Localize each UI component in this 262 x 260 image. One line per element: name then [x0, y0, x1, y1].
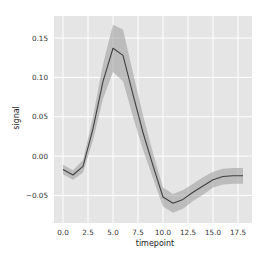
- y-tick-label: −0.05: [26, 191, 48, 200]
- x-tick-label: 7.5: [132, 228, 143, 237]
- y-axis-label: signal: [12, 106, 21, 130]
- y-tick-label: 0.00: [32, 152, 48, 161]
- y-tick-label: 0.15: [32, 34, 48, 43]
- x-tick-label: 15.0: [205, 228, 221, 237]
- plot-area: [54, 16, 252, 223]
- x-tick-label: 2.5: [82, 228, 93, 237]
- x-axis-label: timepoint: [136, 239, 174, 248]
- x-tick-label: 10.0: [155, 228, 171, 237]
- y-axis-ticks: −0.050.000.050.100.15: [26, 34, 48, 200]
- x-tick-label: 12.5: [180, 228, 196, 237]
- line-chart: 0.02.55.07.510.012.515.017.5 −0.050.000.…: [0, 0, 262, 260]
- x-tick-label: 5.0: [107, 228, 119, 237]
- x-tick-label: 17.5: [230, 228, 246, 237]
- x-axis-ticks: 0.02.55.07.510.012.515.017.5: [57, 228, 246, 237]
- x-tick-label: 0.0: [57, 228, 69, 237]
- y-tick-label: 0.10: [32, 73, 48, 82]
- y-tick-label: 0.05: [32, 112, 48, 121]
